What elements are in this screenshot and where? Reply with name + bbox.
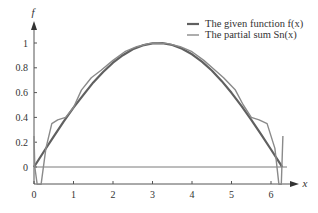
y-tick-label: 0.8 [16, 62, 29, 73]
y-axis-label: f [31, 6, 36, 18]
x-tick-label: 1 [71, 189, 76, 200]
x-tick-label: 4 [190, 189, 195, 200]
x-axis-arrow-icon [290, 181, 299, 187]
x-tick-label: 5 [229, 189, 234, 200]
y-tick-label: 0.6 [16, 87, 29, 98]
legend-label-partial-sum: The partial sum Sn(x) [205, 29, 297, 41]
y-tick-label: 0.2 [16, 137, 29, 148]
chart: f x 0123456 00.20.40.60.81 The given fun… [0, 0, 318, 213]
x-axis: x [34, 177, 308, 189]
x-tick-label: 0 [32, 189, 37, 200]
series-partial-sum [34, 43, 283, 184]
x-tick-label: 3 [150, 189, 155, 200]
series-given-function [34, 43, 282, 167]
y-tick-label: 0 [23, 162, 28, 173]
x-axis-label: x [302, 177, 308, 189]
y-axis-arrow-icon [31, 21, 37, 30]
x-tick-label: 2 [111, 189, 116, 200]
y-tick-label: 1 [23, 38, 28, 49]
y-tick-label: 0.4 [16, 112, 29, 123]
legend: The given function f(x) The partial sum … [187, 18, 304, 41]
x-tick-label: 6 [269, 189, 274, 200]
